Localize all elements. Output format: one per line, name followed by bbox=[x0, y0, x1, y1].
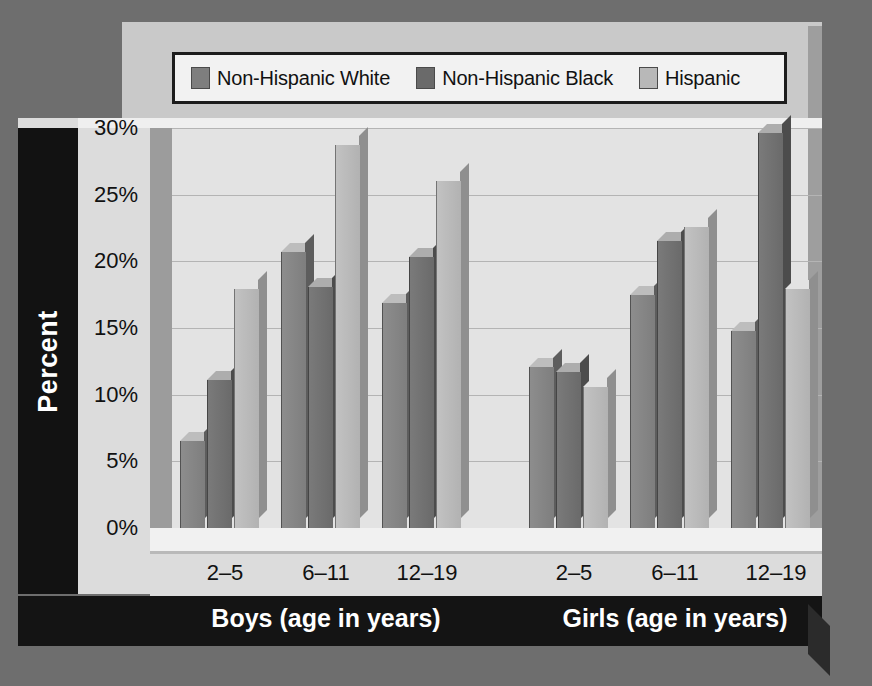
bar bbox=[234, 289, 258, 528]
x-axis-tick-label: 2–5 bbox=[207, 560, 244, 586]
bar-face bbox=[180, 441, 205, 528]
bar-face bbox=[308, 287, 333, 528]
y-axis-tick-label: 5% bbox=[106, 448, 138, 474]
legend-item-label: Non-Hispanic White bbox=[217, 67, 390, 90]
y-axis-tick-label: 30% bbox=[94, 115, 138, 141]
bar-side bbox=[607, 369, 616, 519]
bar bbox=[436, 181, 460, 528]
group-label-band-shadow bbox=[808, 604, 830, 676]
chart-legend: Non-Hispanic WhiteNon-Hispanic BlackHisp… bbox=[172, 52, 787, 104]
bar-side bbox=[809, 271, 818, 519]
bar bbox=[180, 441, 204, 528]
group-label: Girls (age in years) bbox=[562, 604, 787, 633]
bar-face bbox=[731, 331, 756, 528]
bar bbox=[207, 380, 231, 528]
bar-face bbox=[630, 295, 655, 528]
x-axis-label-slab bbox=[150, 554, 822, 596]
y-axis-title: Percent bbox=[33, 310, 64, 413]
y-axis-tick-label: 0% bbox=[106, 515, 138, 541]
bar-face bbox=[758, 133, 783, 528]
bar bbox=[409, 257, 433, 528]
bar-chart: Non-Hispanic WhiteNon-Hispanic BlackHisp… bbox=[0, 0, 872, 686]
legend-item[interactable]: Non-Hispanic White bbox=[191, 67, 390, 90]
y-axis-tick-label: 15% bbox=[94, 315, 138, 341]
bar-face bbox=[335, 145, 360, 528]
bar-face bbox=[234, 289, 259, 528]
bar-face bbox=[556, 372, 581, 528]
legend-swatch-black-icon bbox=[416, 67, 435, 89]
group-label: Boys (age in years) bbox=[211, 604, 440, 633]
bar bbox=[785, 289, 809, 528]
y-axis-tick-label: 25% bbox=[94, 182, 138, 208]
bar bbox=[556, 372, 580, 528]
legend-swatch-white-icon bbox=[191, 67, 210, 89]
bar-face bbox=[684, 227, 709, 528]
bar-face bbox=[529, 367, 554, 528]
x-axis-tick-label: 12–19 bbox=[745, 560, 806, 586]
bar bbox=[731, 331, 755, 528]
x-axis-tick-label: 2–5 bbox=[556, 560, 593, 586]
bar-face bbox=[657, 241, 682, 528]
legend-item[interactable]: Hispanic bbox=[639, 67, 740, 90]
bar bbox=[758, 133, 782, 528]
y-axis-title-wrapper: Percent bbox=[18, 128, 78, 594]
bar-side bbox=[359, 127, 368, 519]
legend-swatch-hispanic-icon bbox=[639, 67, 658, 89]
bar-side bbox=[460, 163, 469, 519]
bar-face bbox=[382, 303, 407, 528]
x-axis-tick-label: 6–11 bbox=[651, 560, 698, 586]
bar-face bbox=[281, 252, 306, 528]
bar-face bbox=[583, 387, 608, 528]
bar bbox=[335, 145, 359, 528]
bar bbox=[382, 303, 406, 528]
bar-face bbox=[785, 289, 810, 528]
bars-layer bbox=[150, 128, 822, 554]
legend-item[interactable]: Non-Hispanic Black bbox=[416, 67, 613, 90]
y-axis-tick-label: 10% bbox=[94, 382, 138, 408]
bar bbox=[281, 252, 305, 528]
bar bbox=[308, 287, 332, 528]
y-axis-tick-label: 20% bbox=[94, 248, 138, 274]
bar-face bbox=[436, 181, 461, 528]
bar bbox=[583, 387, 607, 528]
x-axis-tick-label: 12–19 bbox=[396, 560, 457, 586]
y-axis-tick-labels: 0%5%10%15%20%25%30% bbox=[78, 128, 144, 528]
bar bbox=[529, 367, 553, 528]
legend-item-label: Non-Hispanic Black bbox=[442, 67, 613, 90]
bar bbox=[630, 295, 654, 528]
bar-face bbox=[207, 380, 232, 528]
bar-face bbox=[409, 257, 434, 528]
bar-side bbox=[708, 209, 717, 519]
bar-side bbox=[258, 271, 267, 519]
x-axis-tick-label: 6–11 bbox=[302, 560, 349, 586]
legend-item-label: Hispanic bbox=[665, 67, 740, 90]
bar bbox=[684, 227, 708, 528]
bar bbox=[657, 241, 681, 528]
